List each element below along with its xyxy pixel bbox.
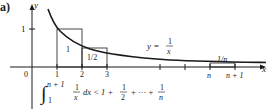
integral-inequality: ∫ n + 1 1 1 x dx < 1 + 1 2 + ··· + 1 n <box>39 80 165 106</box>
x-tick-n: n <box>207 71 211 80</box>
rectangle-n-label: 1/n <box>217 55 227 64</box>
curve-label-numerator: 1 <box>168 37 172 46</box>
y-axis: y 1 <box>21 0 38 109</box>
half-numerator: 1 <box>122 83 126 92</box>
integrand-numerator: 1 <box>75 83 79 92</box>
origin-label: 0 <box>24 70 28 79</box>
integral-test-diagram: a) y 1 x 0 1 2 3 n n + 1 1 1/2 1/n <box>0 0 270 109</box>
rectangle-1-label: 1 <box>66 45 70 54</box>
y-axis-label: y <box>33 0 38 10</box>
rectangle-2-label: 1/2 <box>87 53 97 62</box>
y-tick-1: 1 <box>21 24 26 34</box>
integral-lower-limit: 1 <box>48 96 52 105</box>
integrand-denominator: x <box>73 93 78 102</box>
x-tick-n-plus-1: n + 1 <box>226 71 243 80</box>
curve-one-over-x <box>48 9 266 63</box>
integral-upper-limit: n + 1 <box>47 80 64 89</box>
x-axis: x 0 1 2 3 n n + 1 <box>10 64 266 80</box>
dx-lt-one-plus: dx < 1 + <box>83 87 113 97</box>
last-denominator: n <box>159 93 163 102</box>
x-tick-1: 1 <box>55 70 59 79</box>
curve-label-lhs: y = <box>146 41 159 51</box>
x-tick-2: 2 <box>80 70 84 79</box>
x-tick-3: 3 <box>105 70 109 79</box>
last-numerator: 1 <box>160 83 164 92</box>
x-axis-label: x <box>261 64 266 74</box>
half-denominator: 2 <box>121 93 125 102</box>
ellipsis-plus: + ··· + <box>131 87 154 97</box>
panel-label: a) <box>0 0 10 14</box>
curve-label-denominator: x <box>166 47 171 56</box>
